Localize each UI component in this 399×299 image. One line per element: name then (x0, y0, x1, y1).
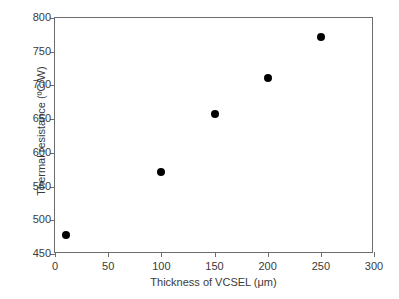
data-point (317, 33, 325, 41)
x-tick-mark (108, 252, 109, 257)
x-tick-mark (55, 252, 56, 257)
x-tick-label: 150 (205, 259, 223, 273)
data-point (264, 74, 272, 82)
x-tick-label: 250 (312, 259, 330, 273)
x-tick-mark (268, 252, 269, 257)
y-tick-label: 800 (33, 10, 51, 25)
plot-area: 450500550600650700750800 050100150200250… (54, 17, 373, 253)
y-tick-label: 450 (33, 246, 51, 261)
x-tick-label: 300 (365, 259, 383, 273)
x-tick-mark (215, 252, 216, 257)
data-point (157, 168, 165, 176)
x-tick-mark (374, 252, 375, 257)
y-axis-label: Thermal resistance (ºC/W) (35, 41, 47, 221)
x-tick-label: 100 (152, 259, 170, 273)
data-point (62, 231, 70, 239)
data-point (211, 110, 219, 118)
x-tick-label: 50 (102, 259, 114, 273)
chart-figure: 450500550600650700750800 050100150200250… (0, 0, 399, 299)
x-tick-mark (321, 252, 322, 257)
x-axis-label: Thickness of VCSEL (μm) (54, 276, 373, 288)
x-tick-label: 200 (258, 259, 276, 273)
x-tick-mark (161, 252, 162, 257)
scatter-series (55, 18, 372, 252)
x-tick-label: 0 (52, 259, 58, 273)
